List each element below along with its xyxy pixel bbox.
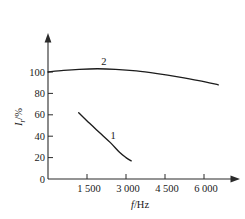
x-axis-title-unit: Hz — [137, 199, 150, 210]
x-axis-arrow-icon — [231, 176, 241, 183]
y-tick-label-60: 60 — [35, 109, 46, 120]
y-axis-arrow-icon — [45, 33, 52, 43]
x-tick-label-6000: 6 000 — [194, 183, 218, 194]
chart-container: 0 20 40 60 80 100 1 500 3 000 4 500 6 00… — [0, 0, 245, 219]
y-tick-label-20: 20 — [35, 152, 46, 163]
svg-text:Ir/%: Ir/% — [13, 108, 27, 127]
x-tick-marks — [87, 174, 204, 179]
series-line-1 — [79, 113, 132, 161]
x-tick-labels: 1 500 3 000 4 500 6 000 — [77, 183, 218, 194]
x-axis — [48, 176, 240, 183]
x-axis-title: f/Hz — [131, 199, 149, 210]
y-axis-title-unit: % — [13, 108, 24, 117]
curve-2-label: 2 — [101, 56, 106, 67]
x-tick-label-1500: 1 500 — [77, 183, 101, 194]
curve-1-label: 1 — [110, 130, 115, 141]
x-tick-label-4500: 4 500 — [155, 183, 179, 194]
x-tick-label-3000: 3 000 — [116, 183, 140, 194]
line-chart-figure: 0 20 40 60 80 100 1 500 3 000 4 500 6 00… — [0, 0, 245, 219]
y-tick-label-100: 100 — [29, 67, 45, 78]
series-line-2 — [48, 69, 218, 85]
y-tick-labels: 0 20 40 60 80 100 — [29, 67, 45, 185]
y-tick-marks — [48, 72, 53, 158]
y-tick-label-40: 40 — [35, 131, 46, 142]
svg-text:f/Hz: f/Hz — [131, 199, 149, 210]
y-tick-label-0: 0 — [40, 174, 45, 185]
y-tick-label-80: 80 — [35, 88, 46, 99]
y-axis-title: Ir/% — [13, 108, 27, 127]
